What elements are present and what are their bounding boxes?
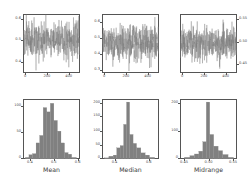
ytick-label: 0.4 [94, 52, 100, 56]
xtick-mark [78, 159, 79, 161]
xtick-mark [233, 159, 234, 161]
xtick-label: 200 [201, 75, 208, 79]
xtick-label: 0.6 [75, 161, 81, 165]
panel-midrange-timeseries: 0.55 0.50 0.45 0 200 400 [180, 14, 237, 73]
xtick-mark [182, 73, 183, 75]
ytick-label: 50 [16, 130, 21, 134]
xtick-mark [25, 73, 26, 75]
ytick-label: 0.4 [15, 60, 21, 64]
xtick-mark [184, 159, 185, 161]
xtick-mark [30, 159, 31, 161]
xtick-label: 0.4 [112, 161, 118, 165]
xtick-mark [148, 73, 149, 75]
ytick-label: 150 [93, 115, 100, 119]
xtick-label: 400 [222, 75, 229, 79]
xtick-label: 0.45 [180, 161, 188, 165]
ytick-mark [100, 158, 102, 159]
xtick-label: 0.50 [204, 161, 212, 165]
ytick-mark [100, 38, 102, 39]
ytick-mark [21, 62, 23, 63]
ytick-label: 100 [171, 129, 178, 133]
ytick-mark [237, 19, 239, 20]
ytick-label: 0.6 [94, 20, 100, 24]
xtick-mark [69, 73, 70, 75]
xtick-mark [209, 159, 210, 161]
xtick-label: 0 [181, 75, 183, 79]
ytick-mark [21, 158, 23, 159]
ytick-mark [100, 70, 102, 71]
ytick-mark [100, 54, 102, 55]
ytick-mark [100, 116, 102, 117]
ytick-label: 0.55 [239, 18, 247, 22]
xtick-mark [54, 159, 55, 161]
histogram-plot [180, 99, 237, 159]
xtick-mark [204, 73, 205, 75]
ytick-mark [21, 40, 23, 41]
xtick-mark [226, 73, 227, 75]
panel-mean-timeseries: 0.6 0.5 0.4 0 200 400 [23, 14, 80, 73]
ytick-label: 0.45 [239, 62, 247, 66]
axis-label-median: Median [119, 167, 142, 173]
ytick-mark [100, 22, 102, 23]
xtick-mark [104, 73, 105, 75]
axis-label-mean: Mean [43, 167, 60, 173]
timeseries-plot [23, 14, 80, 73]
panel-median-timeseries: 0.6 0.5 0.4 0.3 0 200 400 [102, 14, 159, 73]
ytick-mark [100, 145, 102, 146]
ytick-mark [237, 64, 239, 65]
xtick-label: 0.55 [229, 161, 237, 165]
xtick-label: 200 [123, 75, 130, 79]
histogram-plot [23, 99, 80, 159]
ytick-label: 50 [95, 143, 100, 147]
xtick-label: 0.5 [51, 161, 57, 165]
ytick-label: 200 [171, 101, 178, 105]
ytick-mark [21, 19, 23, 20]
ytick-mark [178, 103, 180, 104]
figure-canvas: 0.6 0.5 0.4 0 200 400 0.6 0.5 0.4 0.3 0 … [0, 0, 252, 188]
ytick-label: 200 [93, 101, 100, 105]
timeseries-plot [102, 14, 159, 73]
panel-median-histogram: 200 150 100 50 0 0.4 0.6 Median [102, 99, 159, 159]
ytick-mark [100, 131, 102, 132]
axis-label-midrange: Midrange [194, 167, 223, 173]
ytick-label: 0.3 [94, 68, 100, 72]
xtick-mark [47, 73, 48, 75]
xtick-label: 0 [24, 75, 26, 79]
panel-midrange-histogram: 200 100 0 0.45 0.50 0.55 Midrange [180, 99, 237, 159]
ytick-label: 100 [93, 129, 100, 133]
ytick-label: 0.50 [239, 40, 247, 44]
ytick-label: 0.5 [94, 36, 100, 40]
xtick-label: 0 [103, 75, 105, 79]
xtick-mark [115, 159, 116, 161]
ytick-label: 0.5 [15, 38, 21, 42]
xtick-label: 200 [44, 75, 51, 79]
ytick-mark [100, 103, 102, 104]
ytick-label: 0.6 [15, 17, 21, 21]
panel-mean-histogram: 100 50 0 0.4 0.5 0.6 Mean [23, 99, 80, 159]
ytick-mark [21, 132, 23, 133]
xtick-mark [149, 159, 150, 161]
xtick-label: 400 [65, 75, 72, 79]
timeseries-plot [180, 14, 237, 73]
histogram-plot [102, 99, 159, 159]
ytick-label: 100 [14, 104, 21, 108]
xtick-label: 0.6 [146, 161, 152, 165]
ytick-mark [178, 158, 180, 159]
ytick-mark [237, 42, 239, 43]
ytick-mark [21, 106, 23, 107]
ytick-mark [178, 131, 180, 132]
xtick-label: 400 [144, 75, 151, 79]
xtick-label: 0.4 [27, 161, 33, 165]
xtick-mark [126, 73, 127, 75]
